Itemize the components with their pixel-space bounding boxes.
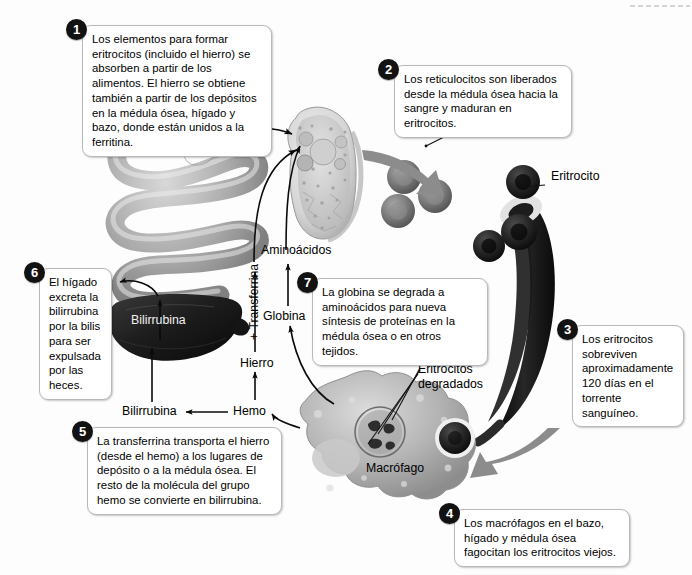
step-callout-4: Los macrófagos en el bazo, hígado y médu…	[454, 509, 630, 567]
step-badge-1: 1	[66, 19, 87, 40]
step-callout-7: La globina se degrada a aminoácidos para…	[312, 278, 488, 366]
step-badge-2: 2	[378, 59, 399, 80]
step-badge-7: 7	[297, 272, 318, 293]
step-callout-1: Los elementos para formar eritrocitos (i…	[82, 25, 272, 157]
step-badge-6: 6	[24, 262, 45, 283]
label-macrofago: Macrófago	[366, 461, 424, 475]
step-callout-6: El hígado excreta la bilirrubina por la …	[39, 268, 112, 400]
label-globina: Globina	[263, 309, 305, 323]
step-callout-2: Los reticulocitos son liberados desde la…	[394, 65, 572, 138]
bone-marrow-illustration	[288, 107, 361, 240]
liver-illustration	[109, 294, 250, 361]
step-badge-5: 5	[72, 421, 93, 442]
arrow-macrophage-to-hemo	[272, 414, 300, 428]
label-bilirrubina-liver: Bilirrubina	[131, 313, 186, 327]
step-badge-4: 4	[439, 503, 460, 524]
step-callout-3: Los eritrocitos sobreviven aproximadamen…	[572, 325, 684, 427]
label-hemo: Hemo	[233, 404, 266, 418]
label-bilirrubina-flow: Bilirrubina	[122, 404, 177, 418]
step-badge-3: 3	[557, 319, 578, 340]
erythrocyte-lifecycle-diagram: 1 Los elementos para formar eritrocitos …	[0, 0, 692, 575]
label-aminoacidos: Aminoácidos	[261, 243, 331, 257]
step-callout-5: La transferrina transporta el hierro (de…	[87, 427, 282, 515]
label-hierro: Hierro	[240, 356, 273, 370]
label-eritrocitos-degradados: Eritrocitos degradados	[418, 362, 514, 392]
label-eritrocito: Eritrocito	[551, 169, 600, 183]
label-transferrina: + Transferrina	[247, 264, 261, 340]
